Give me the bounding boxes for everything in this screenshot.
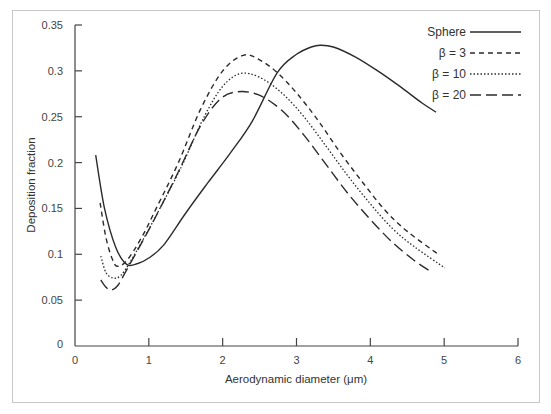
legend-item-sphere: Sphere: [427, 25, 521, 39]
y-tick-label: 0.05: [42, 294, 63, 306]
x-tick-label: 5: [441, 354, 447, 366]
series-beta-20: [101, 92, 433, 291]
x-tick-label: 0: [72, 354, 78, 366]
legend-item-beta-10: β = 10: [432, 67, 521, 81]
y-tick-label: 0.25: [42, 111, 63, 123]
y-tick-label: 0: [57, 338, 63, 350]
x-tick-label: 1: [146, 354, 152, 366]
x-tick-label: 2: [220, 354, 226, 366]
legend-label: β = 10: [432, 67, 466, 81]
y-tick-label: 0.15: [42, 202, 63, 214]
line-chart: 00.050.10.150.20.250.30.350123456 Sphere…: [0, 0, 551, 414]
y-tick-label: 0.35: [42, 19, 63, 31]
data-lines: [96, 45, 445, 290]
y-tick-label: 0.3: [48, 65, 63, 77]
x-tick-label: 3: [293, 354, 299, 366]
y-tick-label: 0.1: [48, 248, 63, 260]
x-tick-label: 6: [515, 354, 521, 366]
legend-item-beta-3: β = 3: [439, 46, 521, 60]
legend-label: β = 3: [439, 46, 467, 60]
y-tick-label: 0.2: [48, 157, 63, 169]
legend-item-beta-20: β = 20: [432, 88, 521, 102]
legend: Sphereβ = 3β = 10β = 20: [427, 25, 521, 102]
y-axis-label: Deposition fraction: [25, 137, 37, 232]
legend-label: Sphere: [427, 25, 466, 39]
legend-label: β = 20: [432, 88, 466, 102]
x-axis-label: Aerodynamic diameter (μm): [225, 373, 367, 385]
x-tick-label: 4: [367, 354, 373, 366]
